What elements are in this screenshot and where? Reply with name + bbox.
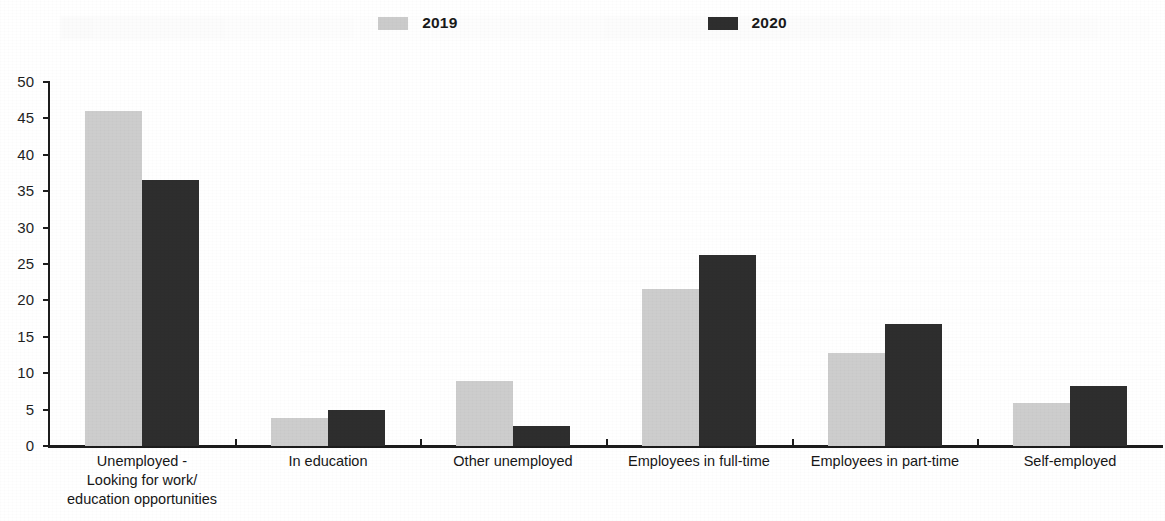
bar-2020 bbox=[885, 324, 942, 446]
x-axis-category-label: Employees in part-time bbox=[792, 452, 978, 471]
bar-2019 bbox=[828, 353, 885, 446]
x-axis-category-label: Self-employed bbox=[977, 452, 1163, 471]
x-axis-category-label-line: Employees in full-time bbox=[606, 452, 792, 471]
bar-chart: 05101520253035404550 Unemployed -Looking… bbox=[0, 0, 1165, 521]
bar-2019 bbox=[642, 289, 699, 446]
legend-swatch-2019 bbox=[378, 17, 408, 30]
x-axis-category-label-line: Looking for work/ bbox=[49, 471, 235, 490]
x-axis-category-label: Employees in full-time bbox=[606, 452, 792, 471]
x-axis-category-label-line: Other unemployed bbox=[420, 452, 606, 471]
legend-entry-2020: 2020 bbox=[708, 14, 787, 32]
legend-label-2019: 2019 bbox=[422, 14, 457, 32]
legend-swatch-2020 bbox=[708, 17, 738, 30]
x-axis-category-label-line: In education bbox=[235, 452, 421, 471]
bar-2019 bbox=[456, 381, 513, 446]
x-axis-category-label-line: Employees in part-time bbox=[792, 452, 978, 471]
x-axis-category-label: Unemployed -Looking for work/education o… bbox=[49, 452, 235, 509]
bars-layer bbox=[0, 0, 1165, 446]
bar-2020 bbox=[328, 410, 385, 446]
bar-2019 bbox=[1013, 403, 1070, 446]
bar-2019 bbox=[85, 111, 142, 446]
bar-2019 bbox=[271, 418, 328, 446]
x-axis-category-label-line: Unemployed - bbox=[49, 452, 235, 471]
x-axis-category-label-line: Self-employed bbox=[977, 452, 1163, 471]
x-axis-category-label: Other unemployed bbox=[420, 452, 606, 471]
legend-entry-2019: 2019 bbox=[378, 14, 457, 32]
bar-2020 bbox=[513, 426, 570, 446]
bar-2020 bbox=[699, 255, 756, 446]
legend-label-2020: 2020 bbox=[752, 14, 787, 32]
x-axis-category-label: In education bbox=[235, 452, 421, 471]
x-axis-category-label-line: education opportunities bbox=[49, 490, 235, 509]
chart-legend: 2019 2020 bbox=[0, 8, 1165, 38]
bar-2020 bbox=[1070, 386, 1127, 446]
bar-2020 bbox=[142, 180, 199, 446]
